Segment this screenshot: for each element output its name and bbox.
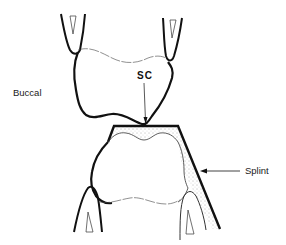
upper-left-socket [61,14,85,54]
sc-arrow [144,83,148,124]
lower-left-socket [74,187,102,232]
splint-label: Splint [245,165,269,176]
buccal-label: Buccal [13,87,42,98]
upper-tooth-crown [74,49,172,124]
lower-tooth-crown [91,133,188,204]
dental-splint-diagram: SC Buccal Splint [0,0,286,245]
upper-right-socket [163,18,182,61]
splint [108,126,220,229]
sc-label: SC [137,70,153,81]
splint-arrow [200,169,240,174]
